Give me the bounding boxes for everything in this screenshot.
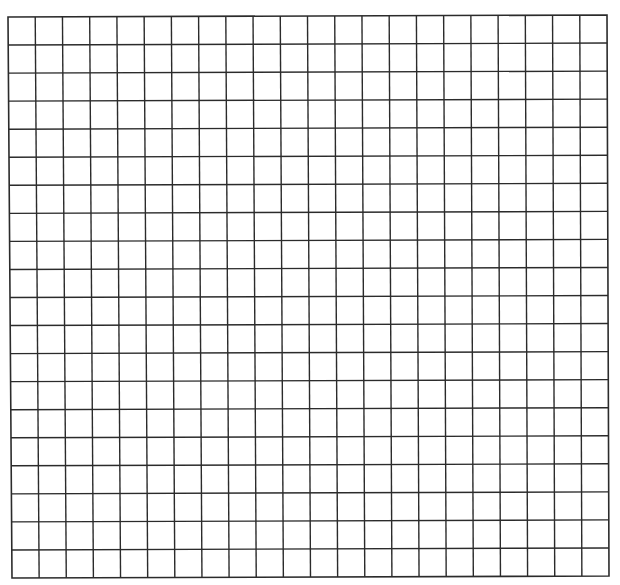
grid-horizontal-line: [9, 99, 608, 101]
square-grid: [0, 0, 620, 585]
grid-horizontal-line: [9, 211, 607, 213]
grid-horizontal-line: [9, 155, 608, 157]
grid-horizontal-line: [12, 520, 609, 522]
grid-lines: [8, 15, 609, 578]
grid-horizontal-line: [8, 71, 607, 73]
grid-horizontal-line: [10, 239, 608, 241]
grid-horizontal-line: [8, 43, 607, 45]
grid-horizontal-line: [9, 127, 608, 129]
grid-horizontal-line: [12, 548, 609, 550]
grid-horizontal-line: [9, 183, 607, 185]
